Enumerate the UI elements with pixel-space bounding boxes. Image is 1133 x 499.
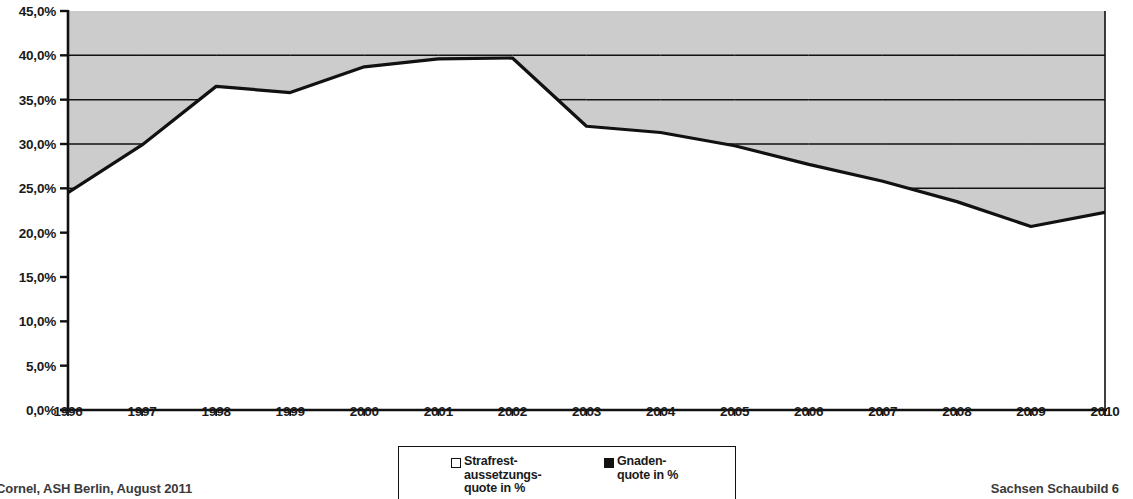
x-axis-tick-labels: 1996199719981999200020012002200320042005…	[0, 404, 1133, 428]
x-axis-tick-label: 1999	[276, 404, 305, 419]
y-axis-tick-label: 45,0%	[4, 4, 56, 19]
x-axis-tick-label: 2000	[350, 404, 379, 419]
x-axis-tick-label: 2006	[794, 404, 823, 419]
legend-item-gnadenquote: Gnaden- quote in %	[604, 455, 678, 482]
y-axis-tick-label: 40,0%	[4, 48, 56, 63]
x-axis-tick-label: 2005	[720, 404, 749, 419]
series-area-fill	[68, 11, 1105, 226]
footer-source-note: Cornel, ASH Berlin, August 2011	[0, 481, 192, 496]
legend-item-label: Strafrest- aussetzungs- quote in %	[464, 455, 541, 496]
footer-figure-label: Sachsen Schaubild 6	[991, 481, 1119, 496]
x-axis-tick-label: 2009	[1016, 404, 1045, 419]
y-axis-tick-label: 30,0%	[4, 137, 56, 152]
y-axis-tick-label: 35,0%	[4, 92, 56, 107]
y-axis-tick-label: 15,0%	[4, 270, 56, 285]
x-axis-tick-label: 2008	[942, 404, 971, 419]
x-axis-tick-label: 2004	[646, 404, 675, 419]
chart-legend: Strafrest- aussetzungs- quote in % Gnade…	[398, 446, 736, 499]
filled-square-icon	[604, 458, 614, 468]
x-axis-tick-label: 1997	[127, 404, 156, 419]
x-axis-tick-label: 1996	[53, 404, 82, 419]
x-axis-tick-label: 2003	[572, 404, 601, 419]
open-square-icon	[451, 458, 461, 468]
y-axis-tick-label: 20,0%	[4, 225, 56, 240]
x-axis-tick-label: 2010	[1090, 404, 1119, 419]
chart-container: 45,0%40,0%35,0%30,0%25,0%20,0%15,0%10,0%…	[0, 0, 1133, 499]
legend-item-label: Gnaden- quote in %	[617, 455, 678, 482]
y-axis-tick-label: 25,0%	[4, 181, 56, 196]
x-axis-tick-label: 1998	[202, 404, 231, 419]
y-axis-tick-labels: 45,0%40,0%35,0%30,0%25,0%20,0%15,0%10,0%…	[0, 0, 56, 420]
x-axis-tick-label: 2007	[868, 404, 897, 419]
y-axis-tick-label: 5,0%	[4, 358, 56, 373]
x-axis-tick-label: 2002	[498, 404, 527, 419]
legend-item-strafrestaussetzungsquote: Strafrest- aussetzungs- quote in %	[451, 455, 541, 496]
y-axis-tick-label: 10,0%	[4, 314, 56, 329]
x-axis-tick-label: 2001	[424, 404, 453, 419]
